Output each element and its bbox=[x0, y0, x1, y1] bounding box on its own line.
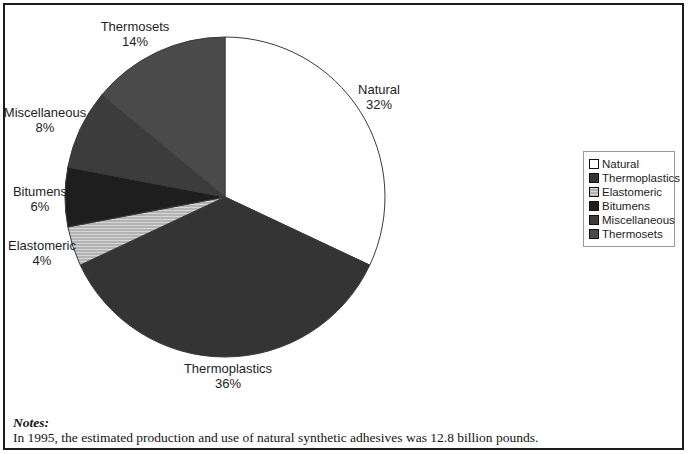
legend-item-elastomeric: Elastomeric bbox=[589, 185, 671, 199]
slice-label-bitumens: Bitumens6% bbox=[13, 184, 67, 214]
slice-label-percent: 14% bbox=[101, 34, 170, 49]
slice-label-percent: 8% bbox=[4, 120, 86, 135]
legend: Natural Thermoplastics Elastomeric Bitum… bbox=[583, 151, 675, 247]
notes-title: Notes: bbox=[13, 415, 538, 430]
legend-item-natural: Natural bbox=[589, 157, 671, 171]
legend-item-label: Elastomeric bbox=[602, 185, 662, 199]
legend-item-label: Miscellaneous bbox=[602, 213, 675, 227]
legend-swatch-icon bbox=[589, 215, 599, 225]
slice-label-miscellaneous: Miscellaneous8% bbox=[4, 105, 86, 135]
slice-label-percent: 32% bbox=[358, 97, 400, 112]
slice-label-name: Natural bbox=[358, 82, 400, 97]
slice-label-thermosets: Thermosets14% bbox=[101, 19, 170, 49]
slice-label-name: Miscellaneous bbox=[4, 105, 86, 120]
legend-item-label: Thermoplastics bbox=[602, 171, 680, 185]
legend-item-bitumens: Bitumens bbox=[589, 199, 671, 213]
legend-swatch-icon bbox=[589, 187, 599, 197]
legend-swatch-icon bbox=[589, 159, 599, 169]
legend-swatch-icon bbox=[589, 201, 599, 211]
pie-slices bbox=[65, 37, 385, 357]
legend-item-thermosets: Thermosets bbox=[589, 227, 671, 241]
slice-label-elastomeric: Elastomeric4% bbox=[8, 238, 76, 268]
legend-item-label: Natural bbox=[602, 157, 639, 171]
notes-block: Notes: In 1995, the estimated production… bbox=[13, 415, 538, 445]
slice-label-percent: 4% bbox=[8, 253, 76, 268]
slice-label-thermoplastics: Thermoplastics36% bbox=[184, 361, 272, 391]
slice-label-percent: 36% bbox=[184, 376, 272, 391]
legend-swatch-icon bbox=[589, 173, 599, 183]
slice-label-name: Thermosets bbox=[101, 19, 170, 34]
notes-text: In 1995, the estimated production and us… bbox=[13, 430, 538, 445]
legend-swatch-icon bbox=[589, 229, 599, 239]
slice-label-name: Thermoplastics bbox=[184, 361, 272, 376]
slice-label-natural: Natural32% bbox=[358, 82, 400, 112]
legend-item-label: Thermosets bbox=[602, 227, 663, 241]
scanned-chart-page: Natural32%Thermoplastics36%Elastomeric4%… bbox=[0, 0, 688, 454]
slice-label-name: Bitumens bbox=[13, 184, 67, 199]
slice-label-name: Elastomeric bbox=[8, 238, 76, 253]
legend-item-miscellaneous: Miscellaneous bbox=[589, 213, 671, 227]
legend-item-label: Bitumens bbox=[602, 199, 650, 213]
slice-label-percent: 6% bbox=[13, 199, 67, 214]
legend-item-thermoplastics: Thermoplastics bbox=[589, 171, 671, 185]
